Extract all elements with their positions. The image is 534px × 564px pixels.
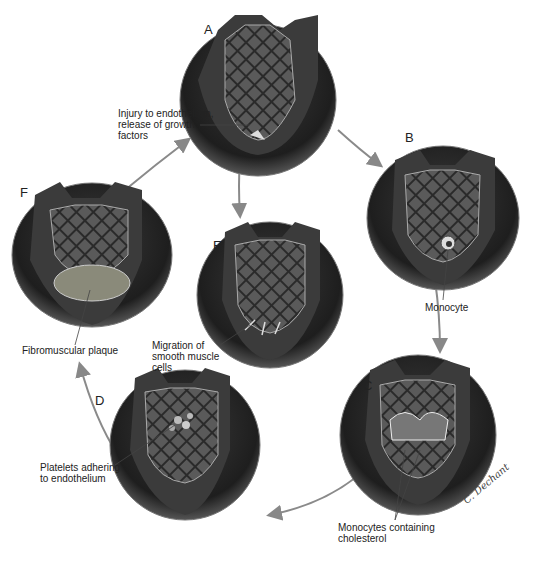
stage-letter-e: E (213, 238, 222, 253)
stage-letter-a: A (204, 22, 213, 37)
label-stage-a: Injury to endothelium, release of growth… (118, 108, 214, 141)
stage-letter-c: C (363, 378, 372, 393)
stage-letter-b: B (405, 130, 414, 145)
label-stage-d: Platelets adhering to endothelium (40, 462, 120, 484)
artery-stage-d (110, 368, 260, 520)
label-stage-c: Monocytes containing cholesterol (338, 522, 435, 544)
label-stage-f: Fibromuscular plaque (22, 345, 118, 356)
artery-stage-a (180, 15, 336, 176)
diagram: A B C D E F Injury to endothelium, relea… (0, 0, 534, 564)
stage-letter-f: F (20, 185, 28, 200)
label-stage-e: Migration of smooth muscle cells (152, 340, 219, 373)
artery-stage-f (12, 182, 172, 327)
label-stage-b: Monocyte (425, 302, 468, 313)
artery-stage-b (367, 146, 519, 290)
stage-letter-d: D (95, 393, 104, 408)
